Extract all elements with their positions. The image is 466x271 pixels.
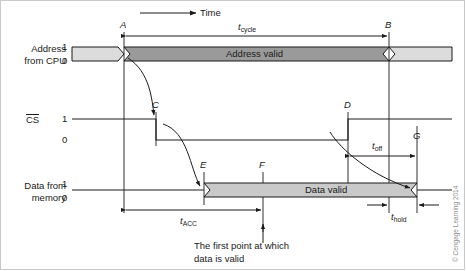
cs-high-label: 1 xyxy=(62,113,67,124)
timing-diagram-figure: Time Address from CPU 1 0 Address valid … xyxy=(0,0,466,271)
cs-signal-name: CS xyxy=(26,114,39,125)
address-valid-text: Address valid xyxy=(226,48,283,59)
arrow-C-to-E xyxy=(163,124,200,186)
marker-label-A: A xyxy=(120,19,126,30)
data-valid-text: Data valid xyxy=(305,184,347,195)
cs-waveform xyxy=(72,119,452,140)
timing-diagram-canvas xyxy=(0,0,466,271)
data-signal-name-line2: memory xyxy=(0,192,66,203)
arrow-A-to-C xyxy=(128,58,154,115)
marker-label-B: B xyxy=(385,19,391,30)
timing-label-t-cycle: tcycle xyxy=(238,21,256,35)
address-signal-name-line1: Address xyxy=(0,43,66,54)
marker-label-E: E xyxy=(200,159,206,170)
marker-label-C: C xyxy=(152,99,159,110)
marker-label-D: D xyxy=(344,99,351,110)
timing-sub-t-acc: ACC xyxy=(183,220,197,227)
marker-label-F: F xyxy=(259,159,265,170)
address-low-label: 0 xyxy=(62,55,67,66)
cs-signal-name-wrapper: CS xyxy=(26,114,39,125)
data-high-label: 1 xyxy=(62,178,67,189)
time-axis-label: Time xyxy=(200,7,221,18)
timing-sub-t-cycle: cycle xyxy=(241,26,257,33)
timing-label-t-off: toff xyxy=(372,140,382,154)
annotation-line1: The first point at which xyxy=(194,240,289,251)
data-low-label: 0 xyxy=(62,192,67,203)
address-signal-name-line2: from CPU xyxy=(0,55,66,66)
timing-sub-t-hold: hold xyxy=(394,216,407,223)
marker-guide-lines xyxy=(124,32,417,232)
timing-label-t-hold: thold xyxy=(391,211,407,225)
data-waveform xyxy=(72,183,452,197)
marker-label-G: G xyxy=(413,130,420,141)
copyright-notice: © Cengage Learning 2014 xyxy=(452,186,459,262)
timing-sub-t-off: off xyxy=(375,145,382,152)
cs-low-label: 0 xyxy=(62,134,67,145)
data-signal-name-line1: Data from xyxy=(0,180,66,191)
address-high-label: 1 xyxy=(62,41,67,52)
timing-label-t-acc: tACC xyxy=(180,215,197,229)
causality-arrows xyxy=(128,58,410,188)
annotation-line2: data is valid xyxy=(194,253,244,264)
